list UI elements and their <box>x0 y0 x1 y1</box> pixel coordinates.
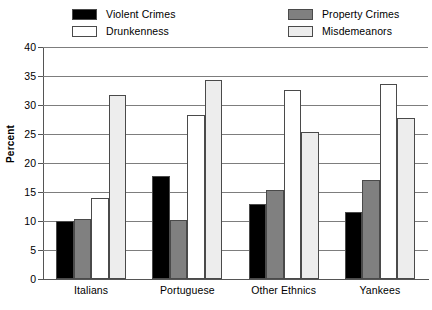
bar <box>205 80 223 279</box>
bar <box>345 212 363 279</box>
legend-swatch-violent-crimes <box>72 9 97 20</box>
y-axis-tick-label: 5 <box>30 245 36 256</box>
y-axis-tick-label: 35 <box>24 71 36 82</box>
y-axis-tick <box>38 250 43 251</box>
legend-swatch-misdemeanors <box>288 26 313 37</box>
legend-label-drunkenness: Drunkenness <box>106 26 169 37</box>
y-axis-tick-label: 15 <box>24 187 36 198</box>
y-axis-tick <box>38 105 43 106</box>
bar <box>397 118 415 279</box>
gridline <box>43 76 428 77</box>
y-axis-tick <box>38 279 43 280</box>
gridline <box>43 163 428 164</box>
y-axis-tick <box>38 47 43 48</box>
x-axis-group-label: Italians <box>74 285 108 296</box>
bar <box>249 204 267 279</box>
legend-item-drunkenness: Drunkenness <box>72 25 169 38</box>
bar <box>362 180 380 279</box>
legend-item-misdemeanors: Misdemeanors <box>288 25 392 38</box>
bar <box>56 221 74 279</box>
x-axis-group-label: Yankees <box>359 285 400 296</box>
bar <box>380 84 398 279</box>
bar-chart: Violent Crimes Drunkenness Property Crim… <box>0 0 432 310</box>
gridline <box>43 134 428 135</box>
y-axis-tick-label: 10 <box>24 216 36 227</box>
x-axis-group-label: Other Ethnics <box>251 285 316 296</box>
x-axis-group-label: Portuguese <box>160 285 215 296</box>
bar <box>109 95 127 279</box>
y-axis-label: Percent <box>6 125 16 163</box>
y-axis-tick-label: 40 <box>24 42 36 53</box>
y-axis-tick <box>38 76 43 77</box>
legend-item-property-crimes: Property Crimes <box>288 8 399 21</box>
y-axis-tick <box>38 221 43 222</box>
legend-swatch-property-crimes <box>288 9 313 20</box>
y-axis-tick-label: 25 <box>24 129 36 140</box>
legend-label-property-crimes: Property Crimes <box>322 9 399 20</box>
gridline <box>43 105 428 106</box>
legend-swatch-drunkenness <box>72 26 97 37</box>
plot-area: 0510152025303540 ItaliansPortugueseOther… <box>43 47 428 279</box>
bar <box>266 190 284 279</box>
y-axis-tick <box>38 134 43 135</box>
chart-legend: Violent Crimes Drunkenness Property Crim… <box>0 0 432 42</box>
y-axis-tick <box>38 192 43 193</box>
x-axis-line <box>43 279 429 280</box>
bar <box>187 115 205 279</box>
y-axis-tick-label: 0 <box>30 274 36 285</box>
y-axis-tick <box>38 163 43 164</box>
legend-label-violent-crimes: Violent Crimes <box>106 9 175 20</box>
y-axis-tick-label: 20 <box>24 158 36 169</box>
legend-label-misdemeanors: Misdemeanors <box>322 26 392 37</box>
bar <box>170 220 188 279</box>
bar <box>91 198 109 279</box>
bar <box>74 219 92 279</box>
bar <box>284 90 302 279</box>
y-axis-tick-label: 30 <box>24 100 36 111</box>
bar <box>301 132 319 279</box>
bar <box>152 176 170 279</box>
gridline <box>43 47 428 48</box>
legend-item-violent-crimes: Violent Crimes <box>72 8 175 21</box>
